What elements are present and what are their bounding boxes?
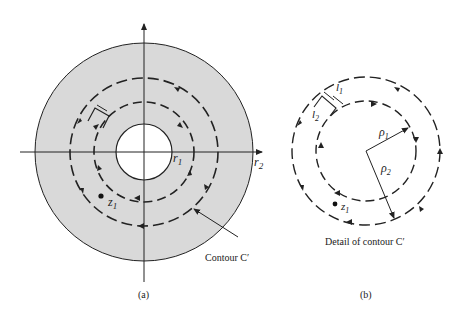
label-l2: l2 [312, 108, 319, 123]
label-l1: l1 [336, 81, 343, 96]
label-rho2: ρ2 [380, 161, 391, 177]
detail-title: Detail of contour C′ [325, 236, 405, 247]
caption-b: (b) [360, 289, 372, 301]
label-contour: Contour C′ [205, 252, 249, 263]
direction-arrows-b [297, 87, 443, 225]
figure-a: z1 r1 r2 Contour C′ (a) [20, 24, 264, 301]
label-rho1: ρ1 [378, 125, 389, 141]
caption-a: (a) [138, 289, 149, 301]
radius-rho2 [366, 151, 394, 218]
figure-b: l1 l2 ρ1 ρ2 z1 Detail of contour C′ (b) [292, 77, 443, 301]
detail-point-z1 [333, 202, 338, 207]
detail-label-z1: z1 [340, 200, 349, 215]
contour-diagram: z1 r1 r2 Contour C′ (a) l1 l2 [0, 0, 455, 314]
point-z1 [98, 193, 103, 198]
label-r2: r2 [254, 155, 264, 171]
